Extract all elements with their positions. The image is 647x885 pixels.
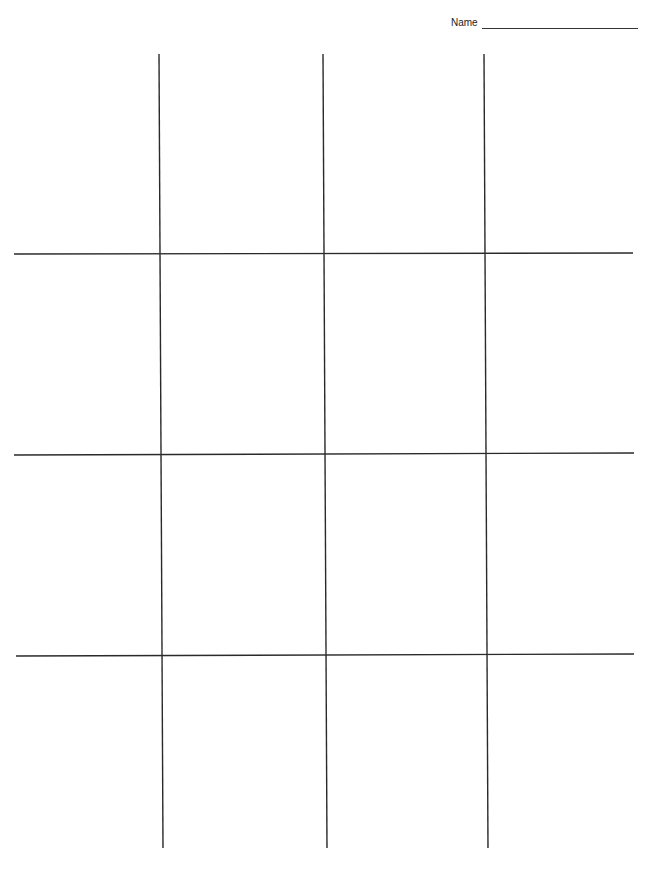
vertical-line-2 — [323, 54, 327, 848]
blank-grid — [0, 0, 647, 885]
horizontal-line-2 — [14, 453, 634, 455]
vertical-line-1 — [159, 54, 163, 848]
vertical-grid-lines — [159, 54, 488, 848]
horizontal-line-1 — [14, 253, 633, 254]
vertical-line-3 — [484, 54, 488, 848]
horizontal-line-3 — [16, 654, 634, 656]
